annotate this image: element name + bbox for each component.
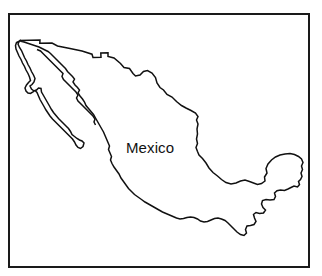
- mexico-map-svg: [0, 0, 322, 276]
- mexico-mainland-outline: [20, 40, 304, 236]
- map-figure: Mexico: [0, 0, 322, 276]
- country-label: Mexico: [126, 139, 174, 156]
